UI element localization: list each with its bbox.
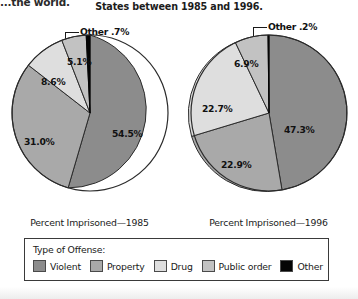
slice-label-drug-1996: 22.7% bbox=[202, 103, 232, 114]
legend-label-public-order: Public order bbox=[219, 261, 272, 272]
panel-caption-1985: Percent Imprisoned—1985 bbox=[0, 217, 179, 228]
legend-item-drug: Drug bbox=[154, 260, 193, 272]
legend-swatch-violent bbox=[33, 260, 46, 272]
legend-label-drug: Drug bbox=[171, 261, 193, 272]
slice-label-property-1985: 31.0% bbox=[24, 136, 54, 147]
legend-item-violent: Violent bbox=[33, 260, 81, 272]
legend-label-other: Other bbox=[297, 261, 322, 272]
legend-item-public-order: Public order bbox=[202, 260, 272, 272]
panel-caption-1996: Percent Imprisoned—1996 bbox=[179, 217, 358, 228]
legend-swatch-public-order bbox=[202, 260, 215, 272]
legend-title: Type of Offense: bbox=[33, 244, 328, 256]
slice-label-violent-1985: 54.5% bbox=[112, 128, 142, 139]
pie-slice-violent-1996 bbox=[269, 35, 347, 190]
legend-swatch-property bbox=[90, 260, 103, 272]
pie-panel-1996: Other .2% 47.3% 22.9% 22.7% 6.9% Percent… bbox=[179, 14, 358, 232]
slice-label-public-order-1985: 5.1% bbox=[67, 56, 91, 67]
legend-label-property: Property bbox=[107, 261, 145, 272]
legend-label-violent: Violent bbox=[50, 261, 81, 272]
slice-label-violent-1996: 47.3% bbox=[284, 124, 314, 135]
legend-item-property: Property bbox=[90, 260, 145, 272]
legend-swatch-other bbox=[280, 260, 293, 272]
slice-label-public-order-1996: 6.9% bbox=[234, 58, 258, 69]
legend-items: Violent Property Drug Public order Other bbox=[33, 260, 328, 272]
callout-leader-horizontal bbox=[253, 27, 267, 28]
pie-panel-1985: Other .7% 54.5% 31.0% 8.6% 5.1% Percent … bbox=[0, 14, 179, 232]
legend-swatch-drug bbox=[154, 260, 167, 272]
legend-box: Type of Offense: Violent Property Drug P… bbox=[24, 238, 329, 281]
slice-label-drug-1985: 8.6% bbox=[41, 76, 65, 87]
page-edge-shading bbox=[0, 287, 358, 299]
pie-chart-group: Other .7% 54.5% 31.0% 8.6% 5.1% Percent … bbox=[0, 14, 358, 232]
figure-caption: States between 1985 and 1996. bbox=[0, 1, 358, 12]
legend-item-other: Other bbox=[280, 260, 322, 272]
slice-label-property-1996: 22.9% bbox=[221, 159, 251, 170]
callout-other-label-1996: Other .2% bbox=[268, 21, 317, 32]
